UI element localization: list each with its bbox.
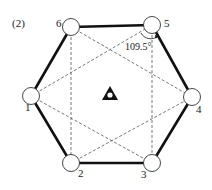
bond-edge-2-1 bbox=[31, 96, 71, 163]
node-label-4: 4 bbox=[196, 103, 202, 115]
dashed-edge-1-5 bbox=[31, 25, 152, 96]
node-label-3: 3 bbox=[141, 168, 147, 180]
node-6 bbox=[63, 19, 80, 36]
bond-edge-6-5 bbox=[71, 25, 152, 27]
bond-edge-4-3 bbox=[152, 97, 192, 163]
node-label-2: 2 bbox=[78, 167, 84, 179]
center-triangle-icon bbox=[102, 86, 118, 100]
node-5 bbox=[144, 17, 161, 34]
panel-label: (2) bbox=[12, 17, 25, 30]
dashed-edge-1-3 bbox=[31, 96, 152, 163]
bond-edge-5-4 bbox=[152, 25, 192, 97]
dashed-edge-2-4 bbox=[71, 97, 192, 163]
node-label-6: 6 bbox=[56, 17, 62, 29]
node-label-1: 1 bbox=[25, 101, 31, 113]
node-2 bbox=[63, 155, 80, 172]
node-label-5: 5 bbox=[164, 17, 170, 29]
hexagon-diagram: (2) 109.5° 123456 bbox=[0, 0, 212, 190]
angle-label: 109.5° bbox=[125, 41, 152, 52]
bond-edge-1-6 bbox=[31, 27, 71, 96]
